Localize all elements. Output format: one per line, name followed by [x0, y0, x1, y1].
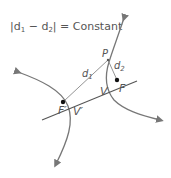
left-branch-curve: [18, 72, 70, 164]
label-d1: d1: [82, 68, 93, 81]
label-p: P: [102, 48, 109, 59]
hyperbola-diagram: |d1 − d2| = Constant P d1 d2 F V F′ V′: [0, 0, 171, 178]
label-d2: d2: [114, 60, 125, 73]
label-v-prime: V′: [73, 105, 84, 118]
equation-text: |d1 − d2| = Constant: [10, 20, 123, 34]
label-f-prime: F′: [58, 104, 67, 117]
label-f: F: [119, 82, 126, 95]
point-p: [107, 59, 109, 61]
